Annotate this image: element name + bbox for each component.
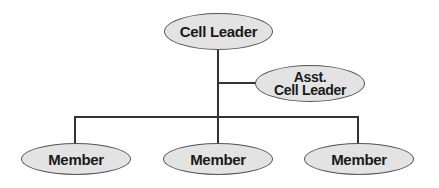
node-cell-leader-label: Cell Leader [180,25,258,38]
member-1-drop-line [74,116,76,144]
node-member-1-label: Member [48,153,104,166]
member-3-drop-line [357,116,359,144]
node-member-2-label: Member [190,153,246,166]
node-assistant-label-line2: Cell Leader [274,84,346,97]
leader-trunk-line [217,49,219,144]
assistant-branch-line [218,82,256,84]
node-cell-leader: Cell Leader [164,13,273,50]
node-member-3: Member [304,143,414,175]
node-member-2: Member [163,143,273,175]
org-chart: Cell Leader Asst. Cell Leader Member Mem… [0,0,439,188]
node-member-3-label: Member [331,153,387,166]
node-member-1: Member [21,143,131,175]
members-horizontal-line [74,116,359,118]
node-assistant-cell-leader: Asst. Cell Leader [255,65,365,102]
